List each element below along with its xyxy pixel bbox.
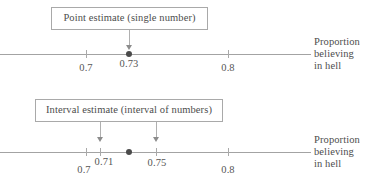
axis-caption-line-2: believing <box>314 48 360 60</box>
arrowhead-icon-lower-bound <box>97 137 103 142</box>
axis-tick-0-8 <box>228 50 229 58</box>
panel-point-estimate: Point estimate (single number) 0.7 0.8 0… <box>0 0 381 91</box>
axis-tick-label-0-75: 0.75 <box>148 157 167 168</box>
axis-caption-line-2: believing <box>314 146 360 158</box>
axis-caption-line-1: Proportion <box>314 134 360 146</box>
panel-interval-estimate: Interval estimate (interval of numbers) … <box>0 91 381 182</box>
axis-caption-interval: Proportion believing in hell <box>314 134 360 171</box>
axis-caption-line-3: in hell <box>314 60 360 72</box>
callout-interval-estimate: Interval estimate (interval of numbers) <box>35 99 223 122</box>
point-estimate-dot <box>126 149 132 155</box>
axis-tick-label-0-8: 0.8 <box>221 164 234 175</box>
axis-tick-0-75 <box>156 148 157 156</box>
arrowhead-icon-point-estimate <box>126 45 132 50</box>
axis-tick-label-0-8: 0.8 <box>221 62 234 73</box>
axis-caption-line-1: Proportion <box>314 36 360 48</box>
axis-tick-0-8 <box>228 148 229 156</box>
point-estimate-dot <box>126 51 132 57</box>
number-line-axis-point <box>0 54 311 55</box>
axis-caption-point: Proportion believing in hell <box>314 36 360 73</box>
axis-tick-label-0-7: 0.7 <box>77 164 90 175</box>
axis-caption-line-3: in hell <box>314 158 360 170</box>
axis-tick-0-71 <box>100 148 101 156</box>
axis-tick-0-7 <box>86 148 87 156</box>
axis-tick-label-0-7: 0.7 <box>79 62 92 73</box>
figure-canvas: Point estimate (single number) 0.7 0.8 0… <box>0 0 381 182</box>
point-estimate-value-label: 0.73 <box>120 58 139 69</box>
arrowhead-icon-upper-bound <box>153 137 159 142</box>
axis-tick-0-7 <box>86 50 87 58</box>
axis-tick-label-0-71: 0.71 <box>95 156 114 167</box>
callout-point-estimate: Point estimate (single number) <box>51 7 208 30</box>
